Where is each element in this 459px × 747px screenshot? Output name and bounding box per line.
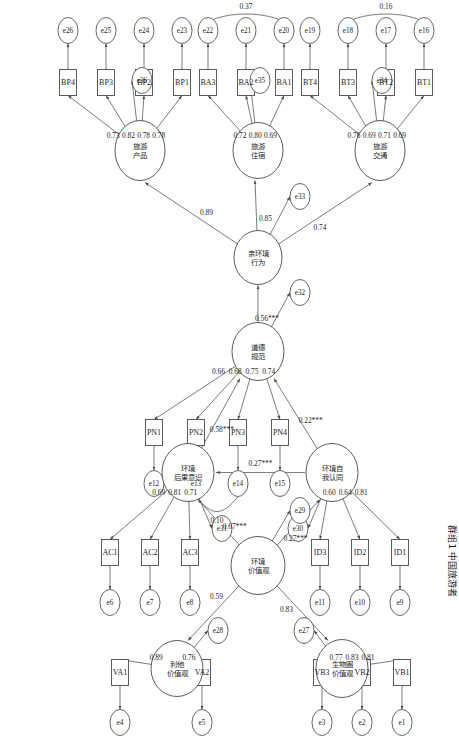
loading-value-PN3: 0.75 <box>246 367 259 376</box>
path-value-L_EV-to-L_VA: 0.59 <box>210 592 223 601</box>
svg-text:价值观: 价值观 <box>248 566 270 575</box>
svg-text:环境自: 环境自 <box>322 463 343 472</box>
svg-text:旅游: 旅游 <box>133 141 148 150</box>
disturbance-label-e33: e33 <box>295 192 306 200</box>
error-label-e20: e20 <box>279 26 290 34</box>
loading-value-BP4: 0.73 <box>107 131 120 140</box>
loading-value-BA1: 0.69 <box>264 131 277 140</box>
error-label-e6: e6 <box>107 598 114 606</box>
disturbance-label-e29: e29 <box>295 506 306 514</box>
observed-label-BP4: BP4 <box>61 78 75 87</box>
latent-label-L_ID: 环境自我认同 <box>322 463 343 481</box>
disturbance-label-e36: e36 <box>137 76 148 84</box>
path-value-L_EV-to-L_AC: 0.67*** <box>223 521 247 530</box>
svg-text:行为: 行为 <box>251 258 265 267</box>
error-label-e12: e12 <box>149 479 160 487</box>
loading-value-ID3: 0.60 <box>323 487 336 496</box>
path-value-L_ID-to-L_AC: 0.27*** <box>248 459 272 468</box>
error-label-e22: e22 <box>203 26 214 34</box>
error-label-e3: e3 <box>319 718 326 726</box>
covariance-value-e20-e22: 0.37 <box>240 2 253 11</box>
latent-label-L_VB: 生物圈价值观 <box>332 659 354 677</box>
loading-value-BP2: 0.78 <box>137 131 150 140</box>
observed-label-PN1: PN1 <box>147 428 161 437</box>
error-label-e2: e2 <box>359 718 366 726</box>
loading-value-BT1: 0.69 <box>393 131 406 140</box>
observed-label-VB3: VB3 <box>314 668 329 677</box>
loading-value-BA3: 0.72 <box>234 131 247 140</box>
covariance-value-e13-e14: 0.10 <box>211 516 224 525</box>
error-label-e4: e4 <box>117 718 124 726</box>
observed-label-BP1: BP1 <box>175 78 189 87</box>
loading-value-AC3: 0.71 <box>184 487 197 496</box>
svg-text:亲环境: 亲环境 <box>248 248 270 257</box>
svg-text:后果意识: 后果意识 <box>174 473 202 482</box>
svg-text:规范: 规范 <box>251 352 266 361</box>
error-label-e26: e26 <box>63 26 74 34</box>
observed-label-BT3: BT3 <box>341 78 355 87</box>
loading-value-PN2: 0.68 <box>229 367 242 376</box>
error-label-e1: e1 <box>399 718 406 726</box>
path-value-L_PEB-to-L_BP: 0.89 <box>200 208 213 217</box>
covariance-value-e16-e18: 0.16 <box>380 2 393 11</box>
error-label-e24: e24 <box>139 26 150 34</box>
error-label-e10: e10 <box>355 598 366 606</box>
error-label-e16: e16 <box>419 26 430 34</box>
svg-text:旅游: 旅游 <box>373 141 388 150</box>
observed-label-BA1: BA1 <box>276 78 291 87</box>
svg-text:旅游: 旅游 <box>251 141 266 150</box>
disturbance-label-e27: e27 <box>299 626 310 634</box>
svg-text:价值观: 价值观 <box>167 669 189 678</box>
loading-value-VA1: 0.89 <box>150 653 163 662</box>
disturbance-label-e34: e34 <box>377 76 388 84</box>
latent-label-L_BT: 旅游交通 <box>373 141 388 159</box>
svg-text:环境: 环境 <box>251 556 266 565</box>
observed-label-ID1: ID1 <box>394 548 406 557</box>
loading-value-ID1: 0.81 <box>355 487 368 496</box>
loading-value-PN4: 0.74 <box>262 367 275 376</box>
loading-value-AC2: 0.81 <box>168 487 181 496</box>
path-value-L_PEB-to-L_BA: 0.85 <box>259 214 272 223</box>
path-value-L_ID-to-L_PN: 0.22*** <box>299 416 323 425</box>
observed-label-AC1: AC1 <box>102 548 117 557</box>
observed-label-BP3: BP3 <box>99 78 113 87</box>
svg-text:道德: 道德 <box>251 342 266 351</box>
observed-label-AC3: AC3 <box>182 548 197 557</box>
loading-value-BT3: 0.69 <box>363 131 376 140</box>
svg-text:住宿: 住宿 <box>251 151 265 160</box>
observed-label-PN2: PN2 <box>189 428 203 437</box>
figure-caption: 群组1 中国旅游者 <box>446 525 459 597</box>
path-value-L_PN-to-L_PEB: 0.56*** <box>255 314 279 323</box>
disturbance-label-e32: e32 <box>295 288 306 296</box>
error-label-e15: e15 <box>275 479 286 487</box>
error-label-e8: e8 <box>187 598 194 606</box>
svg-text:交通: 交通 <box>373 151 388 160</box>
latent-label-L_BA: 旅游住宿 <box>251 141 266 159</box>
error-label-e19: e19 <box>305 26 316 34</box>
error-label-e25: e25 <box>101 26 112 34</box>
error-label-e9: e9 <box>397 598 404 606</box>
svg-text:生物圈: 生物圈 <box>332 659 353 668</box>
observed-label-BA2: BA2 <box>238 78 253 87</box>
svg-text:环境: 环境 <box>181 463 196 472</box>
observed-label-VA2: VA2 <box>195 668 210 677</box>
loading-value-BT4: 0.76 <box>348 131 361 140</box>
svg-text:产品: 产品 <box>133 151 147 160</box>
error-label-e7: e7 <box>147 598 154 606</box>
loading-value-PN1: 0.66 <box>212 367 225 376</box>
loading-value-BP1: 0.78 <box>152 131 165 140</box>
loading-value-VA2: 0.76 <box>183 653 196 662</box>
path-value-L_EV-to-L_VB: 0.83 <box>280 604 293 613</box>
covariance-e13-e14 <box>196 496 238 511</box>
observed-label-PN4: PN4 <box>273 428 287 437</box>
observed-label-BT1: BT1 <box>417 78 431 87</box>
latent-label-L_PN: 道德规范 <box>251 342 266 360</box>
error-label-e23: e23 <box>177 26 188 34</box>
observed-label-ID2: ID2 <box>354 548 366 557</box>
observed-label-AC2: AC2 <box>142 548 157 557</box>
loading-value-BT2: 0.71 <box>378 131 391 140</box>
loading-value-BP3: 0.82 <box>122 131 135 140</box>
observed-label-VB2: VB2 <box>354 668 369 677</box>
